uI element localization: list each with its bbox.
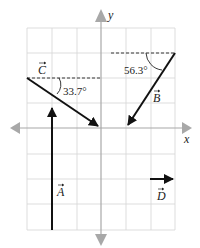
x-axis-label: x	[183, 132, 190, 146]
vector-b-label: B	[153, 91, 161, 105]
angle-arc-c	[57, 78, 61, 94]
axes	[18, 16, 186, 240]
vector-d-label: D	[156, 189, 166, 203]
vector-labels: A B C D	[38, 62, 166, 204]
angle-label-b: 56.3°	[124, 64, 148, 76]
y-axis-down-arrow-icon	[95, 234, 107, 246]
angle-label-c: 33.7°	[63, 85, 87, 97]
vector-diagram: y x A B C D 33.7° 56.3°	[0, 0, 200, 248]
y-axis-label: y	[107, 8, 114, 22]
x-axis-left-arrow-icon	[10, 122, 20, 134]
vector-a-label: A	[56, 185, 65, 199]
y-axis-up-arrow-icon	[95, 9, 107, 22]
vector-c-label: C	[38, 63, 47, 77]
angle-arc-b	[146, 53, 162, 70]
